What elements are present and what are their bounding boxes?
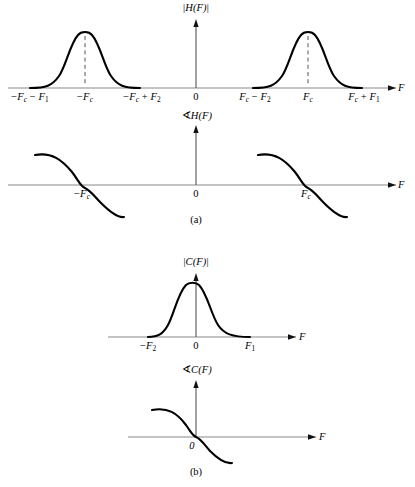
panel-a-magnitude-y-label: |H(F)| [183,3,209,14]
panel-b-magnitude-x-arrow [288,334,296,339]
panel-b-phase-y-label: ∢C(F) [182,364,212,376]
panel-b-magnitude-y-arrow [193,273,198,281]
tick-neg-fc-minus-f1: −Fc − F1 [11,92,49,103]
phase-tick-fc: Fc [301,189,311,200]
tick-fc: Fc [303,92,313,103]
panel-b-phase-x-axis-label: F [319,432,326,443]
phase-tick-neg-fc: −Fc [74,189,90,200]
panel-b-magnitude-x-axis-label: F [299,332,306,343]
panel-a-magnitude-x-axis-label: F [398,83,405,94]
panel-a-phase-x-arrow [388,182,396,187]
panel-a-magnitude-origin-label: 0 [193,92,198,103]
panel-b-baseband-phase-curve [152,409,232,463]
panel-a-phase-y-label: ∢H(F) [182,110,212,122]
tick-fc-plus-f1: Fc + F1 [348,92,380,103]
tick-fc-minus-f2: Fc − F2 [239,92,271,103]
panel-b-phase-origin-label: 0 [189,441,194,452]
caption-b: (b) [190,466,202,477]
panel-a-phase-x-axis-label: F [398,180,405,191]
panel-b-phase-y-arrow [193,380,198,388]
caption-a: (a) [190,214,202,225]
panel-a-magnitude-x-arrow [388,85,396,90]
panel-a-phase-y-arrow [193,125,198,133]
panel-a-phase-origin-label: 0 [193,189,198,200]
tick-neg-fc: −Fc [77,92,93,103]
tick-neg-fc-plus-f2: −Fc + F2 [123,92,161,103]
plot-drawing-layer [0,0,415,487]
panel-b-phase-x-arrow [308,434,316,439]
tick-neg-f2: −F2 [140,341,156,352]
tick-f1: F1 [245,341,255,352]
figure-container: |H(F)| F −Fc − F1 −Fc −Fc + F2 0 Fc − F2… [0,0,415,487]
panel-b-magnitude-origin-label: 0 [193,341,198,352]
panel-b-magnitude-y-label: |C(F)| [183,257,208,268]
panel-a-negative-phase-curve [35,154,124,217]
panel-a-positive-phase-curve [258,154,347,217]
panel-b-baseband-lobe-curve [148,283,250,337]
panel-a-magnitude-y-arrow [193,19,198,27]
